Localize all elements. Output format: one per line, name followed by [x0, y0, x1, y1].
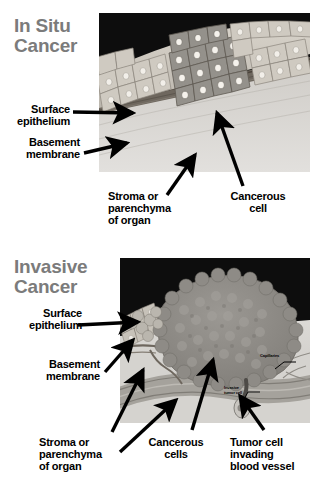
label-surface-epithelium-invasive: Surface epithelium [0, 307, 82, 331]
label-tumor-cell-invading: Tumor cell invading blood vessel [230, 436, 322, 472]
label-cancerous-cell-in-situ: Cancerous cell [218, 190, 298, 214]
panel-in-situ-cancer: In Situ Cancer [0, 0, 322, 243]
invasive-cancer-illustration: Capillaries Invasive tumor cell [120, 258, 310, 423]
cancer-progression-figure: In Situ Cancer [0, 0, 322, 490]
label-cancerous-cells-invasive: Cancerous cells [140, 436, 212, 460]
panel-title-in-situ: In Situ Cancer [14, 16, 77, 56]
inner-label-invasive-tumor-cell: Invasive tumor cell [224, 386, 242, 395]
label-surface-epithelium-in-situ: Surface epithelium [0, 103, 70, 127]
panel-title-invasive: Invasive Cancer [14, 257, 87, 297]
label-stroma-parenchyma-in-situ: Stroma or parenchyma of organ [108, 190, 198, 226]
label-basement-membrane-invasive: Basement membrane [0, 358, 100, 382]
in-situ-cancer-illustration [99, 13, 310, 172]
label-stroma-parenchyma-invasive: Stroma or parenchyma of organ [39, 436, 129, 472]
panel-invasive-cancer: Invasive Cancer [0, 245, 322, 490]
inner-label-capillaries: Capillaries [260, 354, 279, 359]
label-basement-membrane-in-situ: Basement membrane [0, 136, 80, 160]
